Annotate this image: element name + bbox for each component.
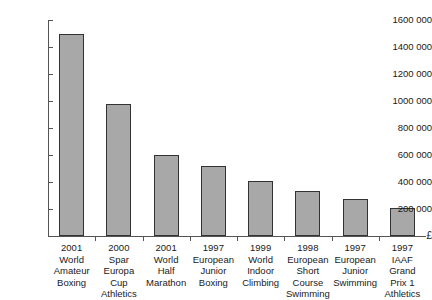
x-axis-tick xyxy=(95,236,96,241)
y-axis-tick-label: 1400 000 xyxy=(388,42,432,52)
x-axis-tick xyxy=(190,236,191,241)
y-axis-tick xyxy=(48,182,53,183)
y-axis-currency-label: £ xyxy=(388,231,432,241)
category-label-line: 1997 xyxy=(190,242,237,254)
x-axis-tick xyxy=(237,236,238,241)
x-axis-tick xyxy=(332,236,333,241)
category-label-line: 2000 xyxy=(95,242,142,254)
bar xyxy=(106,104,131,236)
y-axis-tick-label: 1000 000 xyxy=(388,96,432,106)
y-axis-tick xyxy=(48,209,53,210)
category-label-line: Swimming xyxy=(284,288,331,300)
y-axis-tick xyxy=(48,101,53,102)
category-label-line: Short xyxy=(284,265,331,277)
x-axis-tick xyxy=(284,236,285,241)
y-axis-tick-label: 400 000 xyxy=(388,177,432,187)
category-label-line: Junior xyxy=(190,265,237,277)
y-axis-tick-label: 800 000 xyxy=(388,123,432,133)
category-label-line: 1997 xyxy=(379,242,426,254)
category-label-line: Swimming xyxy=(332,277,379,289)
x-axis-category-label: 2000SparEuropaCupAthletics xyxy=(95,242,142,300)
category-label-line: Prix 1 xyxy=(379,277,426,289)
category-label-line: 1998 xyxy=(284,242,331,254)
category-label-line: Climbing xyxy=(237,277,284,289)
bar xyxy=(248,181,273,236)
plot-area xyxy=(48,20,426,236)
category-label-line: Boxing xyxy=(190,277,237,289)
category-label-line: Junior xyxy=(332,265,379,277)
bar xyxy=(201,166,226,236)
y-axis-tick xyxy=(48,128,53,129)
x-axis-category-label: 1999WorldIndoorClimbing xyxy=(237,242,284,288)
category-label-line: IAAF xyxy=(379,254,426,266)
category-label-line: World xyxy=(48,254,95,266)
category-label-line: 1999 xyxy=(237,242,284,254)
y-axis-tick-label: 200 000 xyxy=(388,204,432,214)
x-axis-category-label: 1997EuropeanJuniorSwimming xyxy=(332,242,379,288)
category-label-line: Marathon xyxy=(143,277,190,289)
category-label-line: European xyxy=(332,254,379,266)
bar xyxy=(295,191,320,236)
category-label-line: Cup xyxy=(95,277,142,289)
category-label-line: 1997 xyxy=(332,242,379,254)
category-label-line: 2001 xyxy=(143,242,190,254)
x-axis-tick xyxy=(143,236,144,241)
category-label-line: Athletics xyxy=(379,288,426,300)
category-label-line: European xyxy=(284,254,331,266)
category-label-line: Grand xyxy=(379,265,426,277)
bar xyxy=(154,155,179,236)
x-axis-category-label: 2001WorldHalfMarathon xyxy=(143,242,190,288)
x-axis-category-label: 2001WorldAmateurBoxing xyxy=(48,242,95,288)
bar xyxy=(343,199,368,236)
category-label-line: Course xyxy=(284,277,331,289)
y-axis-tick-label: 1600 000 xyxy=(388,15,432,25)
x-axis-category-label: 1997EuropeanJuniorBoxing xyxy=(190,242,237,288)
category-label-line: Indoor xyxy=(237,265,284,277)
x-axis-category-label: 1997IAAFGrandPrix 1Athletics xyxy=(379,242,426,300)
y-axis-tick-label: 600 000 xyxy=(388,150,432,160)
y-axis-tick xyxy=(48,47,53,48)
category-label-line: Half xyxy=(143,265,190,277)
category-label-line: 2001 xyxy=(48,242,95,254)
category-label-line: Amateur xyxy=(48,265,95,277)
category-label-line: European xyxy=(190,254,237,266)
category-label-line: Athletics xyxy=(95,288,142,300)
category-label-line: Spar xyxy=(95,254,142,266)
category-label-line: Europa xyxy=(95,265,142,277)
x-axis-tick xyxy=(379,236,380,241)
bar xyxy=(59,34,84,237)
category-label-line: World xyxy=(237,254,284,266)
category-label-line: Boxing xyxy=(48,277,95,289)
x-axis-category-label: 1998EuropeanShortCourseSwimming xyxy=(284,242,331,300)
y-axis-tick xyxy=(48,74,53,75)
y-axis-tick-label: 1200 000 xyxy=(388,69,432,79)
y-axis-tick xyxy=(48,155,53,156)
y-axis-tick xyxy=(48,20,53,21)
category-label-line: World xyxy=(143,254,190,266)
